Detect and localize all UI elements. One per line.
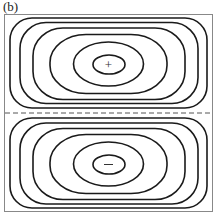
lower-cell-streamlines: [10, 118, 207, 208]
streamline-1: [10, 118, 207, 208]
streamline-diagram: +: [0, 0, 215, 215]
plus-marker: +: [105, 57, 112, 72]
